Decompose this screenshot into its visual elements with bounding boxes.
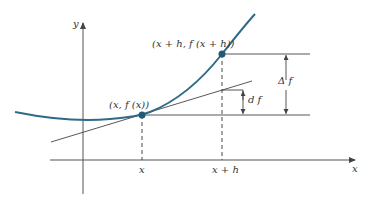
tick-label-x-plus-h: x + h <box>212 164 239 175</box>
x-axis-label: x <box>352 163 358 174</box>
point-label-x-fx: (x, f (x)) <box>109 99 149 110</box>
tick-label-x: x <box>139 164 145 175</box>
point-label-xh-fxh: (x + h, f (x + h)) <box>152 38 235 49</box>
point-x-fx <box>139 112 146 119</box>
df-label: d f <box>248 94 264 105</box>
differential-diagram: y x (x, f (x)) (x + h, f (x + h)) x x + … <box>0 0 373 204</box>
y-axis-label: y <box>72 18 79 29</box>
point-xh-fxh <box>219 51 226 58</box>
delta-f-label: Δ f <box>277 75 294 86</box>
